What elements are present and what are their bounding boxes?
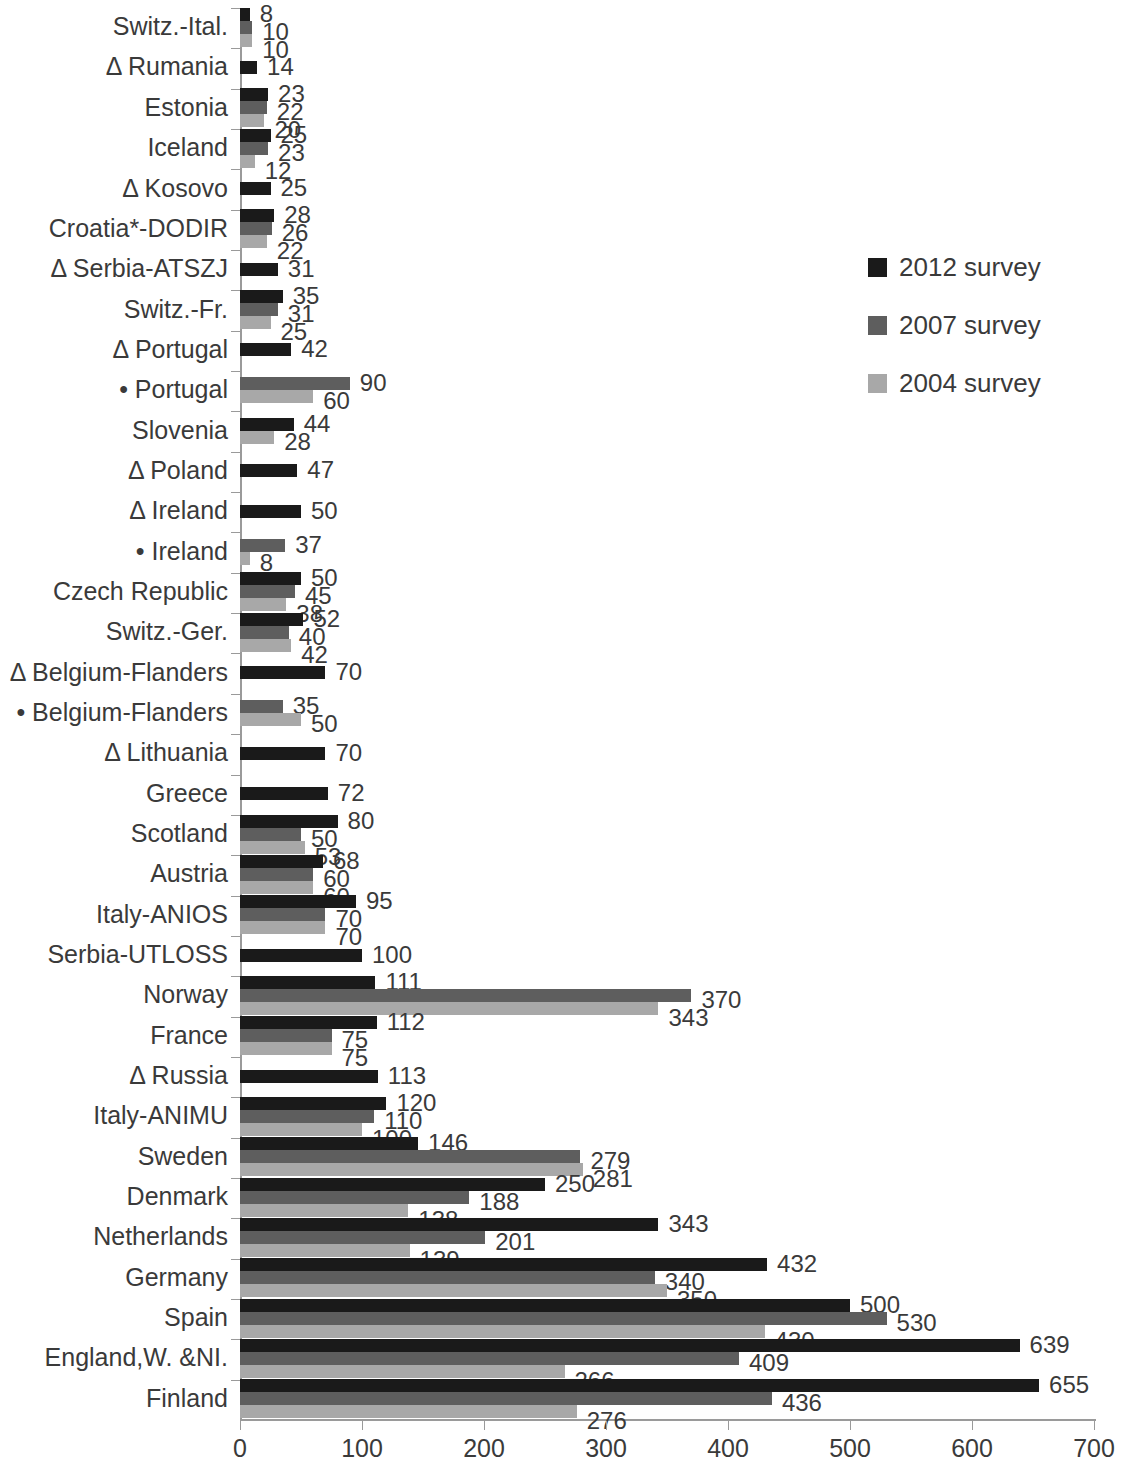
bar-s2004 bbox=[240, 921, 325, 934]
bar-s2012 bbox=[240, 464, 297, 477]
y-axis-tick bbox=[231, 613, 240, 614]
y-axis-tick bbox=[231, 775, 240, 776]
bar-s2007 bbox=[240, 1271, 655, 1284]
category-label: • Ireland bbox=[0, 537, 228, 566]
y-axis-tick bbox=[231, 8, 240, 9]
category-label: Denmark bbox=[0, 1182, 228, 1211]
bar-s2012 bbox=[240, 787, 328, 800]
y-axis-tick bbox=[231, 936, 240, 937]
bar-s2004 bbox=[240, 881, 313, 894]
bar-value-label: 95 bbox=[366, 889, 393, 913]
plot-area: Switz.-Ital.81010Δ Rumania14Estonia23222… bbox=[240, 8, 1094, 1420]
y-axis-tick bbox=[231, 48, 240, 49]
chart-row: France1127575 bbox=[240, 1017, 1094, 1057]
legend-item-2007: 2007 survey bbox=[868, 310, 1041, 341]
bar-s2007 bbox=[240, 1110, 374, 1123]
bar-s2004 bbox=[240, 431, 274, 444]
x-axis-tick bbox=[362, 1421, 363, 1430]
bar-s2007 bbox=[240, 828, 301, 841]
bar-s2004 bbox=[240, 1002, 658, 1015]
x-axis-tick bbox=[850, 1421, 851, 1430]
bar-s2004 bbox=[240, 1284, 667, 1297]
bar-s2004 bbox=[240, 1325, 765, 1338]
bar-s2007 bbox=[240, 626, 289, 639]
x-axis-tick bbox=[606, 1421, 607, 1430]
bar-value-label: 50 bbox=[311, 712, 338, 736]
y-axis-tick bbox=[231, 855, 240, 856]
bar-value-label: 8 bbox=[260, 551, 273, 575]
y-axis-tick bbox=[231, 1299, 240, 1300]
bar-value-label: 343 bbox=[668, 1212, 708, 1236]
x-axis-tick-label: 400 bbox=[707, 1434, 749, 1463]
bar-s2012 bbox=[240, 949, 362, 962]
category-label: Δ Serbia-ATSZJ bbox=[0, 254, 228, 283]
category-label: Italy-ANIMU bbox=[0, 1101, 228, 1130]
x-axis-tick bbox=[240, 1421, 241, 1430]
bar-s2012 bbox=[240, 976, 375, 989]
chart-legend: 2012 survey 2007 survey 2004 survey bbox=[868, 252, 1041, 426]
bar-value-label: 530 bbox=[897, 1311, 937, 1335]
chart-row: • Ireland378 bbox=[240, 532, 1094, 572]
bar-s2004 bbox=[240, 1405, 577, 1418]
bar-value-label: 14 bbox=[267, 55, 294, 79]
bar-s2012 bbox=[240, 263, 278, 276]
bar-value-label: 432 bbox=[777, 1252, 817, 1276]
bar-value-label: 201 bbox=[495, 1230, 535, 1254]
bar-s2012 bbox=[240, 8, 250, 21]
x-axis-tick bbox=[484, 1421, 485, 1430]
category-label: Finland bbox=[0, 1384, 228, 1413]
category-label: Greece bbox=[0, 779, 228, 808]
bar-s2004 bbox=[240, 34, 252, 47]
chart-row: Iceland252312 bbox=[240, 129, 1094, 169]
legend-swatch-icon-2004 bbox=[868, 374, 887, 393]
category-label: Δ Rumania bbox=[0, 52, 228, 81]
bar-s2012 bbox=[240, 182, 271, 195]
bar-s2007 bbox=[240, 1231, 485, 1244]
y-axis-tick bbox=[231, 1218, 240, 1219]
bar-value-label: 37 bbox=[295, 533, 322, 557]
bar-value-label: 409 bbox=[749, 1351, 789, 1375]
chart-row: Δ Belgium-Flanders70 bbox=[240, 653, 1094, 693]
y-axis-tick bbox=[231, 411, 240, 412]
bar-s2012 bbox=[240, 666, 325, 679]
bar-s2004 bbox=[240, 1244, 410, 1257]
bar-s2004 bbox=[240, 155, 255, 168]
category-label: Germany bbox=[0, 1263, 228, 1292]
bar-s2004 bbox=[240, 552, 250, 565]
x-axis-tick-label: 200 bbox=[463, 1434, 505, 1463]
y-axis-tick bbox=[231, 815, 240, 816]
chart-row: Italy-ANIMU120110100 bbox=[240, 1097, 1094, 1137]
bar-s2012 bbox=[240, 572, 301, 585]
category-label: Austria bbox=[0, 859, 228, 888]
category-label: Norway bbox=[0, 980, 228, 1009]
y-axis-tick bbox=[231, 532, 240, 533]
y-axis-tick bbox=[231, 250, 240, 251]
chart-row: Germany432340350 bbox=[240, 1259, 1094, 1299]
bar-s2007 bbox=[240, 989, 691, 1002]
chart-row: Switz.-Ital.81010 bbox=[240, 8, 1094, 48]
x-axis-tick bbox=[1094, 1421, 1095, 1430]
bar-s2004 bbox=[240, 713, 301, 726]
bar-s2007 bbox=[240, 142, 268, 155]
y-axis-tick bbox=[231, 734, 240, 735]
y-axis-tick bbox=[231, 89, 240, 90]
bar-s2012 bbox=[240, 1218, 658, 1231]
bar-s2012 bbox=[240, 855, 323, 868]
bar-s2012 bbox=[240, 61, 257, 74]
x-axis-tick-label: 500 bbox=[829, 1434, 871, 1463]
chart-row: Netherlands343201139 bbox=[240, 1218, 1094, 1258]
chart-row: Sweden146279281 bbox=[240, 1138, 1094, 1178]
chart-row: Serbia-UTLOSS100 bbox=[240, 936, 1094, 976]
category-label: Czech Republic bbox=[0, 577, 228, 606]
legend-label-2007: 2007 survey bbox=[899, 310, 1041, 341]
bar-value-label: 250 bbox=[555, 1172, 595, 1196]
bar-s2007 bbox=[240, 585, 295, 598]
category-label: • Belgium-Flanders bbox=[0, 698, 228, 727]
bar-s2012 bbox=[240, 1299, 850, 1312]
y-axis-tick bbox=[231, 452, 240, 453]
bar-value-label: 436 bbox=[782, 1391, 822, 1415]
category-label: Italy-ANIOS bbox=[0, 900, 228, 929]
x-axis-tick-label: 600 bbox=[951, 1434, 993, 1463]
bar-s2007 bbox=[240, 101, 267, 114]
bar-s2004 bbox=[240, 639, 291, 652]
